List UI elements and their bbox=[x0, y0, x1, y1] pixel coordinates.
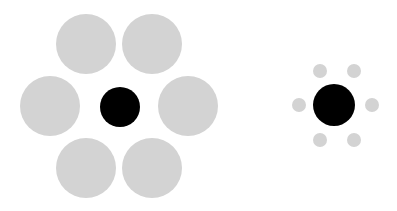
left-group-large-inducers bbox=[20, 14, 218, 198]
inducer-circle bbox=[292, 98, 306, 112]
inducer-circle bbox=[56, 138, 116, 198]
target-circle bbox=[100, 87, 140, 127]
inducer-circle bbox=[347, 133, 361, 147]
ebbinghaus-diagram bbox=[0, 0, 397, 211]
inducer-circle bbox=[365, 98, 379, 112]
inducer-circle bbox=[158, 76, 218, 136]
inducer-circle bbox=[313, 64, 327, 78]
inducer-circle bbox=[122, 138, 182, 198]
inducer-circle bbox=[56, 14, 116, 74]
inducer-circle bbox=[20, 76, 80, 136]
target-circle bbox=[313, 84, 355, 126]
inducer-circle bbox=[347, 64, 361, 78]
inducer-circle bbox=[313, 133, 327, 147]
inducer-circle bbox=[122, 14, 182, 74]
right-group-small-inducers bbox=[292, 64, 379, 147]
